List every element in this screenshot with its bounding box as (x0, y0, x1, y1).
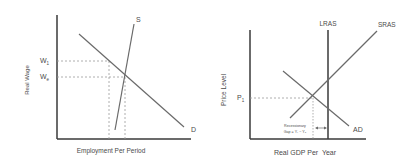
ad-as-diagram: LRAS SRAS AD P1 Recessionary Gap = Y₁ − … (220, 20, 396, 156)
recessionary-gap-label-line1: Recessionary (284, 124, 306, 128)
gap-arrow-head-right (324, 127, 327, 130)
employment-axis-label: Employment Per Period (77, 147, 146, 155)
real-gdp-axis-label: Real GDP Per Year (274, 149, 337, 156)
supply-curve-label: S (136, 16, 141, 23)
lras-label: LRAS (320, 20, 338, 27)
we-label: We (40, 73, 50, 82)
diagram-canvas: S D W1 We Real Wage Employment Per Perio… (0, 0, 418, 166)
ad-curve (283, 71, 349, 126)
labor-demand-curve (79, 34, 184, 127)
demand-curve-label: D (191, 126, 196, 133)
sras-label: SRAS (378, 21, 396, 28)
w1-label: W1 (40, 57, 50, 66)
labor-market-diagram: S D W1 We Real Wage Employment Per Perio… (24, 15, 196, 155)
recessionary-gap-label-line2: Gap = Y₁ − Y₀ (284, 130, 307, 134)
ad-label: AD (353, 126, 363, 133)
sras-curve (290, 31, 377, 118)
p1-label: P1 (237, 94, 245, 103)
price-level-axis-label: Price Level (220, 73, 227, 106)
real-wage-axis-label: Real Wage (24, 65, 30, 95)
gap-arrow-head-left (315, 127, 318, 130)
